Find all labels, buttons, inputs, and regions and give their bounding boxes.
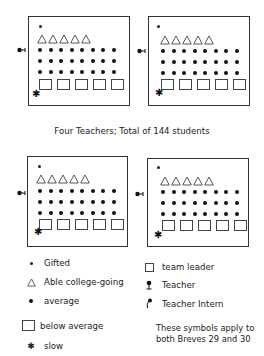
- average-students-grid: [38, 48, 122, 74]
- teacher-icon: [137, 48, 146, 54]
- legend-slow: ✱ slow: [24, 341, 63, 351]
- square-icon: [75, 79, 88, 90]
- legend-teacher-intern: Teacher Intern: [142, 298, 224, 309]
- triangle-icon: [182, 35, 192, 45]
- triangle-icon: [80, 174, 90, 184]
- triangle-icon: [81, 34, 91, 44]
- square-icon: [111, 219, 124, 230]
- legend-note: These symbols apply to both Breves 29 an…: [156, 323, 264, 345]
- note-line-1: These symbols apply to: [156, 323, 264, 334]
- diagram-caption: Four Teachers; Total of 144 students: [0, 126, 264, 136]
- teacher-icon: [135, 191, 144, 197]
- triangle-icon: [160, 35, 170, 45]
- legend-label: Able college-going: [44, 277, 124, 287]
- triangle-icon: [37, 34, 47, 44]
- legend-label: Teacher: [162, 280, 195, 290]
- average-students-grid: [161, 190, 245, 216]
- triangle-icon: [204, 35, 214, 45]
- triangle-icon: [69, 174, 79, 184]
- square-icon: [93, 219, 106, 230]
- legend-label: team leader: [162, 262, 214, 272]
- slow-icon: ✱: [24, 341, 38, 351]
- square-icon: [142, 263, 156, 272]
- slow-student-icon: ✱: [154, 230, 162, 240]
- square-icon: [93, 79, 106, 90]
- triangle-icon: [36, 174, 46, 184]
- legend-average: average: [24, 296, 79, 306]
- legend-label: average: [44, 296, 79, 306]
- square-icon: [233, 79, 246, 90]
- average-students-grid: [38, 189, 122, 215]
- triangle-icon: [171, 35, 181, 45]
- triangle-icon: [24, 278, 38, 287]
- triangle-icon: [70, 34, 80, 44]
- triangle-icon: [47, 174, 57, 184]
- gifted-student-icon: [157, 25, 160, 28]
- slow-student-icon: ✱: [32, 89, 40, 99]
- below-average-students-row: [162, 220, 247, 231]
- triangle-icon: [48, 34, 58, 44]
- slow-student-icon: ✱: [155, 88, 163, 98]
- square-icon: [20, 320, 36, 331]
- square-icon: [179, 79, 192, 90]
- triangle-icon: [204, 176, 214, 186]
- note-line-2: both Breves 29 and 30: [156, 334, 264, 345]
- teacher-icon: [142, 280, 156, 290]
- square-icon: [216, 220, 229, 231]
- triangle-icon: [193, 35, 203, 45]
- gifted-icon: [24, 262, 38, 265]
- square-icon: [57, 219, 70, 230]
- able-students-row: [37, 34, 91, 44]
- legend-label: slow: [44, 341, 63, 351]
- teacher-icon: [17, 47, 26, 53]
- triangle-icon: [160, 176, 170, 186]
- legend-label: Teacher Intern: [162, 299, 224, 309]
- slow-student-icon: ✱: [34, 227, 42, 237]
- triangle-icon: [171, 176, 181, 186]
- below-average-students-row: [39, 219, 124, 230]
- gifted-student-icon: [39, 25, 42, 28]
- square-icon: [215, 79, 228, 90]
- able-students-row: [160, 176, 214, 186]
- legend-able-college-going: Able college-going: [24, 277, 124, 287]
- square-icon: [197, 79, 210, 90]
- below-average-students-row: [161, 79, 246, 90]
- legend-teacher: Teacher: [142, 280, 195, 290]
- below-average-students-row: [39, 79, 124, 90]
- triangle-icon: [193, 176, 203, 186]
- legend-team-leader: team leader: [142, 262, 214, 272]
- legend-gifted: Gifted: [24, 258, 70, 268]
- square-icon: [39, 79, 52, 90]
- teacher-icon: [17, 190, 26, 196]
- average-students-grid: [161, 49, 245, 75]
- teacher-intern-icon: [142, 298, 156, 309]
- gifted-student-icon: [38, 165, 41, 168]
- legend-label: below average: [40, 321, 103, 331]
- square-icon: [198, 220, 211, 231]
- triangle-icon: [59, 34, 69, 44]
- able-students-row: [160, 35, 214, 45]
- square-icon: [111, 79, 124, 90]
- triangle-icon: [182, 176, 192, 186]
- legend-below-average: below average: [20, 320, 103, 331]
- triangle-icon: [58, 174, 68, 184]
- square-icon: [180, 220, 193, 231]
- dot-icon: [24, 299, 38, 303]
- square-icon: [234, 220, 247, 231]
- able-students-row: [36, 174, 90, 184]
- legend-label: Gifted: [44, 258, 70, 268]
- gifted-student-icon: [157, 166, 160, 169]
- square-icon: [162, 220, 175, 231]
- square-icon: [75, 219, 88, 230]
- square-icon: [57, 79, 70, 90]
